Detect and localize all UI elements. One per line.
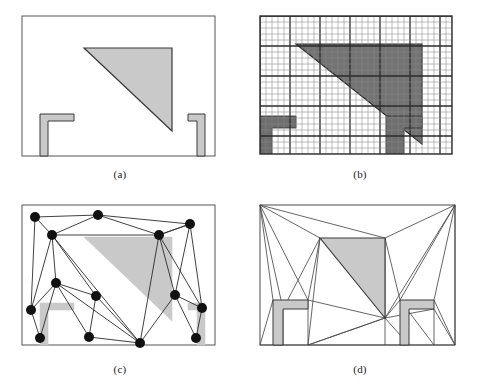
roadmap-node[interactable] bbox=[26, 305, 36, 315]
panel-d-graphic bbox=[240, 195, 479, 367]
panel-a-container: (a) bbox=[0, 0, 240, 195]
roadmap-node[interactable] bbox=[135, 338, 145, 348]
panel-b-container: (b) bbox=[240, 0, 479, 195]
roadmap-node[interactable] bbox=[30, 212, 40, 222]
panel-a-caption: (a) bbox=[0, 168, 240, 180]
roadmap-node[interactable] bbox=[197, 303, 207, 313]
panel-c-graphic bbox=[0, 195, 240, 367]
panel-c-caption: (c) bbox=[0, 363, 240, 375]
panel-b-graphic bbox=[240, 0, 479, 170]
panel-d-caption: (d) bbox=[240, 363, 479, 375]
roadmap-node[interactable] bbox=[51, 278, 61, 288]
panel-c-container: (c) bbox=[0, 195, 240, 391]
roadmap-node[interactable] bbox=[93, 210, 103, 220]
roadmap-node[interactable] bbox=[84, 332, 94, 342]
panel-a-graphic bbox=[0, 0, 240, 170]
roadmap-node[interactable] bbox=[154, 230, 164, 240]
roadmap-node[interactable] bbox=[47, 230, 57, 240]
roadmap-node[interactable] bbox=[91, 291, 101, 301]
workspace-boundary bbox=[22, 16, 215, 156]
panel-d-container: (d) bbox=[240, 195, 479, 391]
roadmap-node[interactable] bbox=[170, 290, 180, 300]
roadmap-node[interactable] bbox=[191, 333, 201, 343]
figure-root: (a) (b) (c) bbox=[0, 0, 479, 391]
panel-b-caption: (b) bbox=[240, 168, 479, 180]
roadmap-node[interactable] bbox=[185, 219, 195, 229]
roadmap-node[interactable] bbox=[35, 333, 45, 343]
